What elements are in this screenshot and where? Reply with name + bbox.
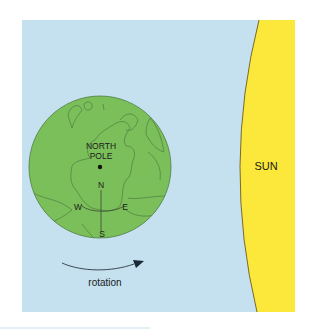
- east-label: E: [122, 202, 128, 212]
- west-label: W: [74, 202, 82, 212]
- sun-label: SUN: [254, 160, 277, 172]
- north-pole-label-line2: POLE: [90, 151, 113, 161]
- rotation-label: rotation: [88, 277, 121, 288]
- earth-sun-diagram: SUN NORTH POLE N W E S rotation: [0, 0, 312, 329]
- north-pole-dot: [98, 165, 102, 169]
- north-pole-label-line1: NORTH: [86, 141, 116, 151]
- north-label: N: [98, 180, 104, 190]
- south-label: S: [99, 229, 105, 239]
